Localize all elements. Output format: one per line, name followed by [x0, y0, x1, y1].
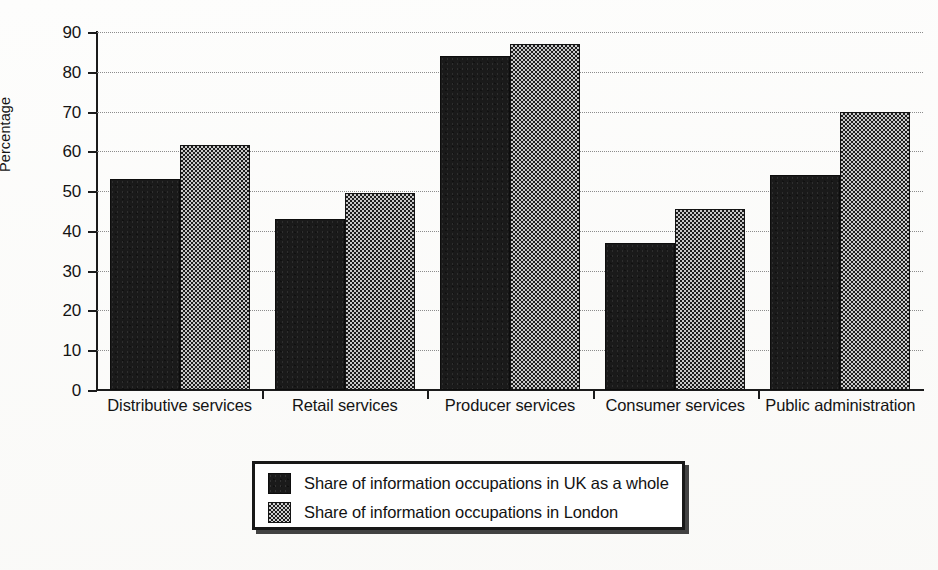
bar-london-4 [840, 112, 910, 390]
y-tick-label-90: 90 [62, 23, 88, 43]
legend-label-uk: Share of information occupations in UK a… [304, 474, 669, 493]
bar-uk-3 [605, 243, 675, 390]
y-tick-30: 30 [88, 271, 97, 273]
y-tick-80: 80 [88, 72, 97, 74]
bar-london-2 [510, 44, 580, 390]
legend-swatch-london-icon [268, 502, 291, 523]
y-tick-label-30: 30 [62, 262, 88, 282]
y-tick-label-10: 10 [62, 341, 88, 361]
legend-entry-uk: Share of information occupations in UK a… [268, 470, 669, 496]
bar-uk-2 [440, 56, 510, 390]
y-tick-70: 70 [88, 112, 97, 114]
category-label-4: Public administration [758, 396, 923, 415]
y-tick-40: 40 [88, 231, 97, 233]
y-tick-60: 60 [88, 151, 97, 153]
bar-uk-1 [275, 219, 345, 390]
category-label-1: Retail services [262, 396, 427, 415]
category-label-2: Producer services [427, 396, 592, 415]
category-label-0: Distributive services [97, 396, 262, 415]
y-tick-label-20: 20 [62, 301, 88, 321]
y-tick-50: 50 [88, 191, 97, 193]
y-tick-label-70: 70 [62, 103, 88, 123]
y-tick-label-40: 40 [62, 222, 88, 242]
bar-uk-0 [110, 179, 180, 390]
y-tick-label-80: 80 [62, 63, 88, 83]
bar-london-3 [675, 209, 745, 390]
category-label-3: Consumer services [593, 396, 758, 415]
bar-london-1 [345, 193, 415, 390]
legend-entry-london: Share of information occupations in Lond… [268, 499, 618, 525]
bar-london-0 [180, 145, 250, 390]
gridline-90 [97, 32, 923, 33]
y-tick-20: 20 [88, 310, 97, 312]
y-tick-90: 90 [88, 32, 97, 34]
y-tick-label-0: 0 [72, 381, 88, 401]
y-axis-title: Percentage [0, 97, 13, 172]
y-tick-label-50: 50 [62, 182, 88, 202]
bar-chart-figure: Percentage 0102030405060708090 Distribut… [0, 0, 938, 570]
bar-uk-4 [770, 175, 840, 390]
chart-legend: Share of information occupations in UK a… [252, 461, 685, 530]
y-tick-10: 10 [88, 350, 97, 352]
y-tick-label-60: 60 [62, 142, 88, 162]
plot-area [97, 32, 923, 390]
legend-label-london: Share of information occupations in Lond… [304, 503, 618, 522]
legend-swatch-uk-icon [268, 473, 291, 494]
y-tick-0: 0 [88, 390, 97, 392]
